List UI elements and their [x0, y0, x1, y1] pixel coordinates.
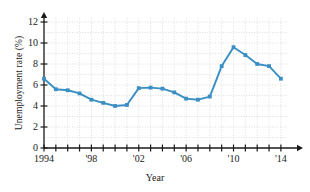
svg-text:'14: '14: [275, 153, 287, 164]
svg-text:4: 4: [33, 100, 38, 111]
svg-text:10: 10: [28, 37, 38, 48]
svg-text:0: 0: [33, 142, 38, 153]
y-axis-tick-labels: 024681012: [28, 16, 38, 153]
y-axis-label: Unemployment rate (%): [14, 18, 24, 148]
x-axis-label: Year: [0, 172, 310, 183]
unemployment-rate-line-chart: Unemployment rate (%) Year 024681012 199…: [0, 0, 310, 192]
svg-text:'98: '98: [85, 153, 97, 164]
svg-text:12: 12: [28, 16, 38, 27]
svg-text:1994: 1994: [34, 153, 54, 164]
svg-text:2: 2: [33, 121, 38, 132]
svg-text:6: 6: [33, 79, 38, 90]
svg-text:'06: '06: [180, 153, 192, 164]
x-axis-ticks: [44, 145, 281, 152]
plot-area: 024681012 1994'98'02'06'10'14: [0, 0, 310, 192]
vertical-gridlines: [56, 18, 281, 147]
svg-text:'02: '02: [133, 153, 145, 164]
svg-text:'10: '10: [228, 153, 240, 164]
x-axis-tick-labels: 1994'98'02'06'10'14: [34, 153, 287, 164]
svg-text:8: 8: [33, 58, 38, 69]
horizontal-gridlines: [46, 22, 288, 138]
axis-lines: [41, 12, 303, 151]
